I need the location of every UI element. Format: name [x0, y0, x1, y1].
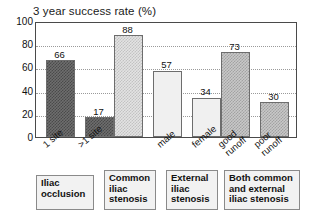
- y-tick-20: 20: [1, 110, 33, 120]
- bar-value-female: 34: [191, 87, 220, 97]
- bar-value-1-site: 66: [45, 50, 74, 60]
- y-tick-40: 40: [1, 87, 33, 97]
- bar-common-iliac: [114, 35, 143, 137]
- bar-value-poor-runoff: 30: [259, 92, 288, 102]
- bar-male: [153, 71, 182, 137]
- y-tick-100: 100: [1, 17, 33, 27]
- group-box-common-iliac-stenosis: Common iliac stenosis: [104, 170, 156, 210]
- gridline-80: [36, 46, 296, 47]
- y-tick-80: 80: [1, 40, 33, 50]
- group-box-iliac-occlusion: Iliac occlusion: [36, 175, 94, 210]
- chart-title: 3 year success rate (%): [33, 5, 156, 17]
- bar-value-common-iliac: 88: [113, 25, 142, 35]
- bar-1-site: [46, 60, 75, 137]
- bar-value-gt1-site: 17: [84, 107, 113, 117]
- group-box-external-iliac-stenosis: External iliac stenosis: [166, 170, 218, 210]
- y-axis: 100 80 60 40 20 0: [0, 22, 33, 138]
- plot-area: [35, 22, 297, 138]
- group-box-both-iliac-stenosis: Both common and external iliac stenosis: [224, 170, 300, 210]
- chart-figure: 3 year success rate (%) 100 80 60 40 20 …: [0, 0, 312, 217]
- bar-good-runoff: [221, 52, 250, 137]
- y-tick-60: 60: [1, 63, 33, 73]
- y-tick-0: 0: [1, 133, 33, 143]
- bar-value-male: 57: [152, 60, 181, 70]
- bar-value-good-runoff: 73: [220, 42, 249, 52]
